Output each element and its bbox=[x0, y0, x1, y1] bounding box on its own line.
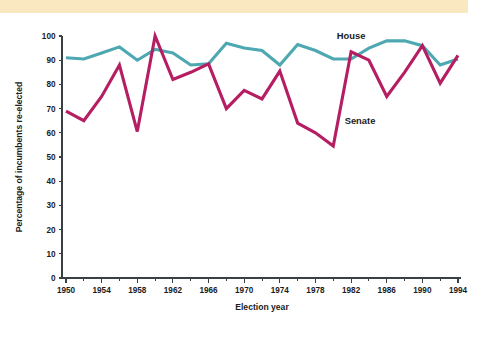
x-axis-tick-label: 1990 bbox=[413, 286, 432, 295]
x-axis-tick-label: 1950 bbox=[57, 286, 76, 295]
y-axis-tick-label: 90 bbox=[46, 56, 56, 65]
x-axis-tick-label: 1954 bbox=[93, 286, 112, 295]
x-axis-title: Election year bbox=[235, 302, 289, 312]
series-label-senate: Senate bbox=[345, 115, 376, 126]
x-axis-tick-label: 1958 bbox=[128, 286, 147, 295]
series-line-house bbox=[66, 41, 458, 65]
y-axis-tick-label: 60 bbox=[46, 129, 56, 138]
y-axis-tick-label: 0 bbox=[51, 274, 56, 283]
x-axis-tick-label: 1966 bbox=[199, 286, 218, 295]
x-axis-tick-label: 1974 bbox=[271, 286, 290, 295]
y-axis-tick-label: 100 bbox=[42, 32, 56, 41]
x-axis-tick-label: 1978 bbox=[306, 286, 325, 295]
x-axis-tick-label: 1970 bbox=[235, 286, 254, 295]
y-axis-tick-label: 30 bbox=[46, 201, 56, 210]
x-axis-tick-label: 1962 bbox=[164, 286, 183, 295]
y-axis-tick-label: 10 bbox=[46, 250, 56, 259]
series-label-house: House bbox=[337, 30, 366, 41]
x-axis-tick-label: 1982 bbox=[342, 286, 361, 295]
y-axis-title: Percentage of incumbents re-elected bbox=[14, 82, 24, 232]
y-axis-tick-label: 80 bbox=[46, 80, 56, 89]
line-chart: 0102030405060708090100195019541958196219… bbox=[0, 0, 485, 338]
y-axis-tick-label: 70 bbox=[46, 105, 56, 114]
y-axis-tick-label: 50 bbox=[46, 153, 56, 162]
figure-canvas: 0102030405060708090100195019541958196219… bbox=[0, 0, 485, 338]
x-axis-tick-label: 1986 bbox=[378, 286, 397, 295]
x-axis-tick-label: 1994 bbox=[449, 286, 468, 295]
y-axis-tick-label: 40 bbox=[46, 177, 56, 186]
y-axis-tick-label: 20 bbox=[46, 226, 56, 235]
